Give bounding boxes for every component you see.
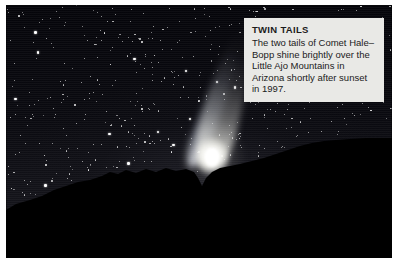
caption-body: The two tails of Comet Hale–Bopp shine b… bbox=[252, 37, 377, 95]
mountain-ridge bbox=[6, 138, 392, 258]
comet-photo-page: TWIN TAILS The two tails of Comet Hale–B… bbox=[0, 0, 402, 274]
caption-box: TWIN TAILS The two tails of Comet Hale–B… bbox=[244, 18, 384, 102]
caption-title: TWIN TAILS bbox=[252, 24, 377, 36]
